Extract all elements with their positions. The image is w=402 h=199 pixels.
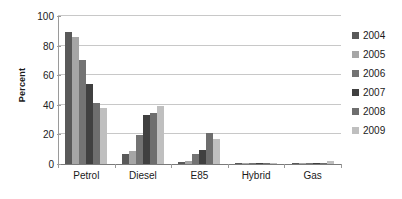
bar-group-gas [284,16,341,164]
legend-label: 2009 [363,125,385,136]
legend-item-2007[interactable]: 2007 [352,83,402,102]
legend-swatch-icon [352,89,359,96]
y-axis-tick-mark [57,105,61,106]
y-axis-tick-labels: 020406080100 [24,16,54,164]
bar-petrol-2007 [86,84,93,164]
bar-hybrid-2005 [242,163,249,164]
bar-diesel-2009 [157,106,164,164]
bar-e85-2008 [206,133,213,164]
legend-label: 2005 [363,49,385,60]
bar-hybrid-2009 [270,163,277,164]
legend-label: 2007 [363,87,385,98]
bar-petrol-2006 [79,60,86,164]
y-axis-tick-mark [57,46,61,47]
x-axis-tick-label: Diesel [129,170,157,181]
y-axis-tick-mark [57,134,61,135]
bar-group-petrol [58,16,115,164]
bar-hybrid-2007 [256,163,263,164]
y-axis-tick-label: 0 [28,159,54,170]
bar-diesel-2008 [150,113,157,164]
bars-layer [58,16,341,164]
y-axis-tick-mark [57,16,61,17]
x-axis-tick-mark [228,164,229,168]
bar-gas-2008 [320,163,327,164]
y-axis-tick-label: 40 [28,99,54,110]
bar-diesel-2007 [143,115,150,164]
bar-petrol-2009 [100,108,107,164]
legend-item-2009[interactable]: 2009 [352,121,402,140]
bar-group-e85 [171,16,228,164]
bar-e85-2006 [192,154,199,164]
bar-petrol-2004 [65,32,72,164]
legend-swatch-icon [352,51,359,58]
legend-label: 2004 [363,30,385,41]
bar-hybrid-2006 [249,163,256,164]
legend-item-2008[interactable]: 2008 [352,102,402,121]
x-axis-tick-label: E85 [191,170,209,181]
x-axis-tick-mark [341,164,342,168]
bar-group-diesel [115,16,172,164]
legend-swatch-icon [352,108,359,115]
x-axis-tick-mark [58,164,59,168]
x-axis-tick-mark [284,164,285,168]
bar-diesel-2004 [122,154,129,164]
bar-gas-2005 [299,163,306,164]
bar-diesel-2005 [129,151,136,164]
bar-e85-2005 [185,161,192,164]
x-axis-line [58,164,341,165]
bar-diesel-2006 [136,135,143,164]
legend-label: 2006 [363,68,385,79]
bar-gas-2004 [292,163,299,164]
bar-e85-2009 [213,139,220,164]
bar-group-hybrid [228,16,285,164]
bar-hybrid-2008 [263,163,270,164]
legend-item-2005[interactable]: 2005 [352,45,402,64]
x-axis-tick-label: Gas [304,170,322,181]
y-axis-tick-label: 20 [28,129,54,140]
legend-swatch-icon [352,32,359,39]
bar-gas-2006 [306,163,313,164]
legend-label: 2008 [363,106,385,117]
legend-swatch-icon [352,70,359,77]
x-axis-tick-mark [115,164,116,168]
x-axis-tick-label: Petrol [73,170,99,181]
x-axis-tick-label: Hybrid [242,170,271,181]
bar-petrol-2005 [72,37,79,164]
x-axis-tick-mark [171,164,172,168]
bar-gas-2009 [327,161,334,164]
chart-legend: 200420052006200720082009 [352,26,402,140]
y-axis-tick-mark [57,75,61,76]
bar-petrol-2008 [93,103,100,164]
legend-item-2004[interactable]: 2004 [352,26,402,45]
x-axis-tick-labels: PetrolDieselE85HybridGas [58,170,341,190]
bar-e85-2007 [199,150,206,164]
y-axis-tick-label: 100 [28,11,54,22]
legend-item-2006[interactable]: 2006 [352,64,402,83]
y-axis-tick-label: 80 [28,40,54,51]
legend-swatch-icon [352,127,359,134]
bar-gas-2007 [313,163,320,164]
bar-e85-2004 [178,162,185,164]
bar-hybrid-2004 [235,163,242,164]
y-axis-tick-label: 60 [28,70,54,81]
bar-chart: Percent 020406080100 PetrolDieselE85Hybr… [0,0,402,199]
